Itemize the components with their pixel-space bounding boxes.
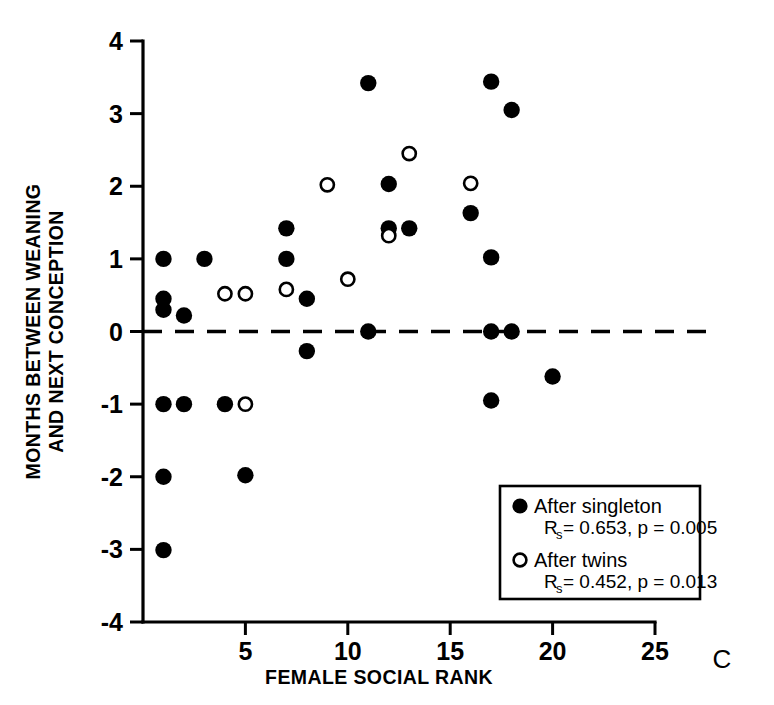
data-point	[403, 147, 416, 160]
data-point	[360, 323, 376, 339]
legend-stat-subscript: s	[556, 581, 563, 596]
x-tick-label: 10	[334, 637, 362, 665]
y-tick-label: 0	[109, 318, 123, 346]
legend-stat-subscript: s	[556, 527, 563, 542]
data-point	[239, 398, 252, 411]
data-point	[341, 273, 354, 286]
data-point	[237, 467, 253, 483]
data-point	[155, 542, 171, 558]
data-point	[196, 251, 212, 267]
y-tick-label: 3	[109, 100, 123, 128]
data-point	[462, 205, 478, 221]
data-point	[155, 251, 171, 267]
data-point	[176, 396, 192, 412]
y-tick-label: 4	[109, 27, 123, 55]
y-axis-title-line: MONTHS BETWEEN WEANING	[22, 184, 44, 480]
data-point	[218, 287, 231, 300]
data-point	[401, 220, 417, 236]
x-tick-label: 25	[641, 637, 669, 665]
legend-stat-values: = 0.452, p = 0.013	[563, 571, 717, 592]
x-axis-title: FEMALE SOCIAL RANK	[265, 666, 493, 688]
data-point	[382, 229, 395, 242]
y-tick-label: -3	[101, 535, 123, 563]
legend-stat-values: = 0.653, p = 0.005	[563, 517, 717, 538]
data-point	[176, 307, 192, 323]
legend-marker-open-circle-icon	[514, 554, 527, 567]
y-tick-label: -1	[101, 390, 123, 418]
data-point	[321, 178, 334, 191]
data-point	[217, 396, 233, 412]
data-point	[299, 291, 315, 307]
y-tick-label: -4	[101, 608, 123, 636]
y-axis-title-line: AND NEXT CONCEPTION	[45, 210, 67, 453]
data-point	[278, 251, 294, 267]
data-point	[503, 323, 519, 339]
scatter-plot-figure: -4-3-2-101234510152025FEMALE SOCIAL RANK…	[0, 0, 774, 705]
data-point	[464, 177, 477, 190]
data-point	[299, 343, 315, 359]
x-tick-label: 15	[436, 637, 464, 665]
y-tick-label: 1	[109, 245, 123, 273]
data-point	[483, 392, 499, 408]
data-point	[483, 323, 499, 339]
y-tick-label: 2	[109, 172, 123, 200]
data-point	[544, 368, 560, 384]
data-point	[483, 73, 499, 89]
plot-canvas: -4-3-2-101234510152025FEMALE SOCIAL RANK…	[0, 0, 774, 705]
data-point	[360, 75, 376, 91]
data-point	[155, 469, 171, 485]
data-point	[280, 283, 293, 296]
data-point	[239, 287, 252, 300]
legend-series-label: After singleton	[534, 495, 662, 517]
x-tick-label: 5	[238, 637, 252, 665]
data-point	[155, 396, 171, 412]
legend-series-label: After twins	[534, 549, 627, 571]
data-point	[381, 176, 397, 192]
data-point	[155, 302, 171, 318]
panel-label: C	[713, 644, 732, 674]
data-point	[483, 249, 499, 265]
data-point	[278, 220, 294, 236]
x-tick-label: 20	[539, 637, 567, 665]
y-tick-label: -2	[101, 463, 123, 491]
legend-marker-filled-circle-icon	[512, 498, 527, 513]
data-point	[503, 102, 519, 118]
